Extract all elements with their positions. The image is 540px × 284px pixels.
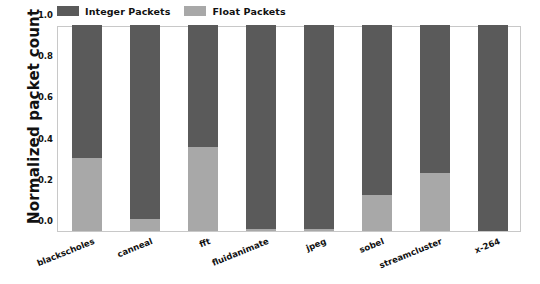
bar-segment-integer-packets[interactable] [304,25,334,229]
legend-label-integer-packets: Integer Packets [85,6,170,17]
bar-segment-integer-packets[interactable] [246,25,276,229]
bar-segment-integer-packets[interactable] [188,25,218,147]
y-axis-tick-label: 1.0 [38,10,53,20]
chart-legend: Integer Packets Float Packets [57,3,286,19]
bar-segment-integer-packets[interactable] [130,25,160,219]
bar-group[interactable] [246,25,276,231]
legend-label-float-packets: Float Packets [212,6,285,17]
x-axis-tick-label: streamcluster [378,236,444,270]
legend-swatch-float-packets [184,6,206,16]
plot-area: 0.00.20.40.60.81.0 [57,26,521,232]
bar-segment-integer-packets[interactable] [362,25,392,195]
bar-segment-float-packets[interactable] [420,173,450,231]
y-axis-tick-label: 0.0 [38,216,53,226]
bar-group[interactable] [362,25,392,231]
bar-segment-integer-packets[interactable] [72,25,102,158]
y-axis-title: Normalized packet count [25,14,43,224]
bar-segment-integer-packets[interactable] [478,25,508,231]
bar-segment-float-packets[interactable] [72,158,102,231]
legend-swatch-integer-packets [57,6,79,16]
bar-group[interactable] [478,25,508,231]
bar-group[interactable] [304,25,334,231]
bar-group[interactable] [188,25,218,231]
chart-figure: Integer Packets Float Packets Normalized… [0,0,540,284]
x-axis-tick-label: canneal [116,236,154,259]
bar-segment-float-packets[interactable] [246,229,276,231]
x-axis-tick-label: sobel [358,236,386,255]
y-axis-tick-label: 0.2 [38,175,53,185]
bar-group[interactable] [72,25,102,231]
x-axis-tick-label: fluidanimate [210,236,270,268]
bar-segment-float-packets[interactable] [188,147,218,231]
plot-inner: 0.00.20.40.60.81.0 [58,27,520,231]
bar-segment-integer-packets[interactable] [420,25,450,173]
legend-entry-integer-packets: Integer Packets [57,6,170,17]
bar-segment-float-packets[interactable] [304,229,334,231]
y-axis-tick-label: 0.6 [38,92,53,102]
bar-segment-float-packets[interactable] [130,219,160,231]
x-axis-tick-label: jpeg [305,236,328,253]
y-axis-tick-label: 0.8 [38,51,53,61]
legend-entry-float-packets: Float Packets [184,6,285,17]
x-axis-tick-label: blackscholes [35,236,95,268]
x-axis-tick-label: fft [198,236,212,249]
bar-segment-float-packets[interactable] [362,195,392,231]
bar-group[interactable] [420,25,450,231]
bar-group[interactable] [130,25,160,231]
y-axis-tick-label: 0.4 [38,134,53,144]
x-axis-tick-label: x-264 [473,236,502,255]
